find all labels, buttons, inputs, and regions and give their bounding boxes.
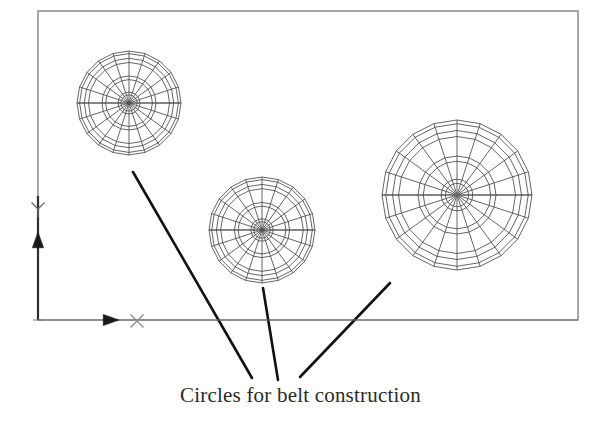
belt-circle-right-spoke-16 <box>457 124 480 194</box>
belt-circle-left-spoke-9 <box>80 103 129 119</box>
belt-circle-middle-spoke-1 <box>263 230 312 246</box>
belt-circle-left-spoke-14 <box>113 54 129 103</box>
belt-circle-middle-spoke-11 <box>212 214 261 230</box>
belt-circle-middle-spoke-6 <box>246 231 262 280</box>
belt-circle-left <box>77 51 181 155</box>
belt-circle-middle-spoke-9 <box>212 230 261 246</box>
x-axis-label <box>131 315 144 328</box>
y-axis-arrowhead-icon <box>32 232 43 248</box>
belt-circle-right <box>382 120 532 270</box>
belt-circle-right-spoke-6 <box>434 196 457 266</box>
belt-circle-right-spoke-9 <box>386 195 456 218</box>
belt-circle-middle-spoke-14 <box>246 180 262 229</box>
leader-line-right <box>300 283 390 377</box>
caption-label: Circles for belt construction <box>0 383 601 408</box>
belt-circle-right-hub <box>456 194 458 196</box>
cad-vector-layer <box>0 0 601 431</box>
belt-circle-left-spoke-16 <box>129 54 145 103</box>
belt-circle-left-hub <box>128 102 130 104</box>
belt-circle-middle <box>209 177 315 283</box>
belt-circle-left-spoke-19 <box>130 87 179 103</box>
x-axis-arrowhead-icon <box>103 314 119 325</box>
belt-circle-right-spoke-19 <box>458 172 528 195</box>
belt-circle-middle-spoke-19 <box>263 214 312 230</box>
leader-line-middle <box>263 288 278 380</box>
cad-drawing-canvas: Circles for belt construction <box>0 0 601 431</box>
belt-circle-left-spoke-11 <box>80 87 129 103</box>
leader-lines-group <box>133 172 390 380</box>
belt-circle-right-spoke-4 <box>457 196 480 266</box>
belt-circle-middle-spoke-16 <box>262 180 278 229</box>
belt-circle-left-spoke-4 <box>129 104 145 153</box>
belt-circle-right-spoke-1 <box>458 195 528 218</box>
belt-circle-right-spoke-11 <box>386 172 456 195</box>
belt-circles-group <box>77 51 532 283</box>
belt-circle-left-spoke-6 <box>113 104 129 153</box>
belt-circle-middle-spoke-4 <box>262 231 278 280</box>
belt-circle-middle-hub <box>261 229 263 231</box>
belt-circle-right-spoke-14 <box>434 124 457 194</box>
belt-circle-left-spoke-1 <box>130 103 179 119</box>
